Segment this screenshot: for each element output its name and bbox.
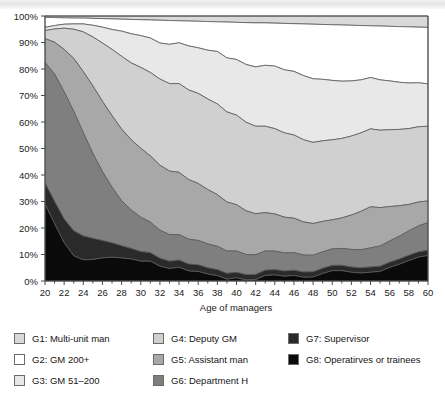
y-tick-label: 40% bbox=[19, 170, 39, 181]
y-tick-label: 90% bbox=[19, 37, 39, 48]
y-tick-label: 60% bbox=[19, 117, 39, 128]
legend-item-label: G8: Operatirves or trainees bbox=[306, 355, 421, 365]
x-tick-label: 30 bbox=[135, 287, 146, 298]
legend-column-3: G7: SupervisorG8: Operatirves or trainee… bbox=[288, 329, 421, 371]
legend-item[interactable]: G7: Supervisor bbox=[288, 329, 421, 348]
y-tick-label: 100% bbox=[14, 11, 39, 22]
legend-item[interactable]: G4: Deputy GM bbox=[153, 329, 248, 348]
x-tick-label: 44 bbox=[270, 287, 281, 298]
legend-item[interactable]: G1: Multi-unit man bbox=[14, 329, 110, 348]
legend-item-label: G3: GM 51–200 bbox=[32, 376, 100, 386]
x-tick-label: 46 bbox=[289, 287, 300, 298]
x-tick-label: 52 bbox=[346, 287, 357, 298]
y-tick-label: 70% bbox=[19, 90, 39, 101]
scan-artifact-strip bbox=[0, 0, 445, 9]
x-tick-label: 42 bbox=[250, 287, 261, 298]
legend-swatch bbox=[14, 333, 25, 344]
legend-swatch bbox=[153, 354, 164, 365]
x-tick-label: 26 bbox=[97, 287, 108, 298]
x-tick-label: 54 bbox=[365, 287, 376, 298]
x-axis-tick-labels: 2022242628303234363840424446485052545658… bbox=[40, 281, 434, 298]
legend-item-label: G7: Supervisor bbox=[306, 334, 369, 344]
x-tick-label: 58 bbox=[404, 287, 415, 298]
x-axis-title: Age of managers bbox=[200, 302, 273, 313]
x-tick-label: 56 bbox=[384, 287, 395, 298]
legend-swatch bbox=[288, 333, 299, 344]
y-tick-label: 50% bbox=[19, 143, 39, 154]
x-tick-label: 28 bbox=[116, 287, 127, 298]
x-tick-label: 36 bbox=[193, 287, 204, 298]
legend-item-label: G6: Department H bbox=[171, 376, 248, 386]
chart-bands-group bbox=[45, 16, 428, 281]
legend-swatch bbox=[14, 375, 25, 386]
y-tick-label: 30% bbox=[19, 196, 39, 207]
y-tick-label: 10% bbox=[19, 249, 39, 260]
x-tick-label: 20 bbox=[40, 287, 51, 298]
x-tick-label: 34 bbox=[174, 287, 185, 298]
x-tick-label: 32 bbox=[155, 287, 166, 298]
legend-item[interactable]: G2: GM 200+ bbox=[14, 350, 110, 369]
legend-item[interactable]: G8: Operatirves or trainees bbox=[288, 350, 421, 369]
legend-item-label: G5: Assistant man bbox=[171, 355, 248, 365]
legend-item[interactable]: G3: GM 51–200 bbox=[14, 371, 110, 390]
y-axis-tick-labels: 0%10%20%30%40%50%60%70%80%90%100% bbox=[14, 11, 45, 287]
legend-column-2: G4: Deputy GMG5: Assistant manG6: Depart… bbox=[153, 329, 248, 392]
legend-item-label: G1: Multi-unit man bbox=[32, 334, 110, 344]
stacked-area-chart: 0%10%20%30%40%50%60%70%80%90%100% 202224… bbox=[0, 9, 445, 393]
x-tick-label: 60 bbox=[423, 287, 434, 298]
x-tick-label: 50 bbox=[327, 287, 338, 298]
chart-plot-svg: 0%10%20%30%40%50%60%70%80%90%100% 202224… bbox=[0, 9, 445, 319]
legend-item-label: G2: GM 200+ bbox=[32, 355, 89, 365]
y-tick-label: 20% bbox=[19, 223, 39, 234]
legend-swatch bbox=[153, 333, 164, 344]
y-tick-label: 80% bbox=[19, 64, 39, 75]
y-tick-label: 0% bbox=[24, 276, 38, 287]
x-tick-label: 22 bbox=[59, 287, 70, 298]
legend-swatch bbox=[14, 354, 25, 365]
legend-item-label: G4: Deputy GM bbox=[171, 334, 237, 344]
x-tick-label: 38 bbox=[212, 287, 223, 298]
legend-item[interactable]: G5: Assistant man bbox=[153, 350, 248, 369]
legend-swatch bbox=[153, 375, 164, 386]
chart-legend: G1: Multi-unit manG2: GM 200+G3: GM 51–2… bbox=[0, 329, 445, 393]
legend-column-1: G1: Multi-unit manG2: GM 200+G3: GM 51–2… bbox=[14, 329, 110, 392]
x-tick-label: 24 bbox=[78, 287, 89, 298]
x-tick-label: 40 bbox=[231, 287, 242, 298]
x-tick-label: 48 bbox=[308, 287, 319, 298]
legend-swatch bbox=[288, 354, 299, 365]
legend-item[interactable]: G6: Department H bbox=[153, 371, 248, 390]
